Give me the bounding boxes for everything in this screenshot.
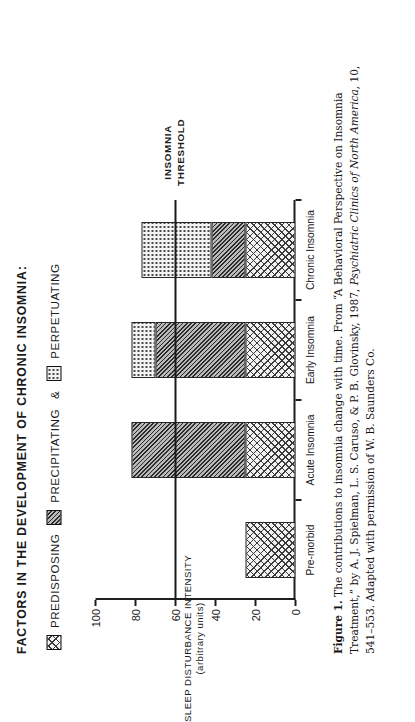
value-tick-label: 40 [209, 600, 221, 621]
threshold-label-line2: THRESHOLD [173, 119, 186, 186]
bar-segment-predisposing [245, 522, 295, 578]
bar-segment-precipitating [131, 422, 245, 478]
bar-group [95, 322, 295, 378]
category-label: Pre-morbid [304, 525, 315, 576]
bar-group [95, 422, 295, 478]
legend-item-precipitating: PRECIPITATING [46, 409, 61, 525]
bar-group [95, 222, 295, 278]
legend-swatch-predisposing-icon [46, 635, 61, 650]
plot-area: SLEEP DISTURBANCE INTENSITY (arbitrary u… [95, 200, 295, 600]
value-tick-label: 80 [129, 600, 141, 621]
category-label: Chronic Insomnia [304, 210, 315, 290]
value-axis-title: SLEEP DISTURBANCE INTENSITY (arbitrary u… [181, 555, 205, 722]
category-tick [295, 399, 301, 400]
category-tick [295, 299, 301, 300]
value-tick-label: 20 [249, 600, 261, 621]
bar-group [95, 522, 295, 578]
value-axis-title-line1: SLEEP DISTURBANCE INTENSITY [181, 555, 193, 722]
chart-title: FACTORS IN THE DEVELOPMENT OF CHRONIC IN… [14, 265, 28, 654]
legend-label-perpetuating: PERPETUATING [47, 263, 60, 358]
value-tick-label: 100 [89, 600, 101, 627]
category-tick [295, 199, 301, 200]
category-label: Early Insomnia [304, 316, 315, 384]
bar-segment-predisposing [245, 222, 295, 278]
value-tick-label: 60 [169, 600, 181, 621]
insomnia-threshold-label: INSOMNIA THRESHOLD [160, 119, 186, 186]
bar-segment-predisposing [245, 322, 295, 378]
bar-segment-precipitating [155, 322, 245, 378]
legend-swatch-perpetuating-icon [46, 366, 61, 381]
legend-item-predisposing: PREDISPOSING [46, 534, 61, 650]
figure-caption: Figure 1. The contributions to insomnia … [330, 42, 378, 654]
threshold-label-line1: INSOMNIA [160, 119, 173, 186]
value-axis-title-line2: (arbitrary units) [193, 555, 205, 722]
category-tick [295, 499, 301, 500]
legend-label-predisposing: PREDISPOSING [47, 534, 60, 628]
legend-conjunction: & [47, 390, 60, 400]
value-tick-label: 0 [289, 600, 301, 615]
category-label: Acute Insomnia [304, 415, 315, 486]
legend-swatch-precipitating-icon [46, 510, 61, 525]
insomnia-threshold-line [174, 200, 176, 600]
legend-item-perpetuating: PERPETUATING [46, 263, 61, 380]
bar-segment-precipitating [211, 222, 245, 278]
bar-segment-perpetuating [131, 322, 155, 378]
caption-figure-number: Figure 1. [331, 600, 343, 654]
bar-segment-predisposing [245, 422, 295, 478]
legend-label-precipitating: PRECIPITATING [47, 409, 60, 503]
chart-legend: PREDISPOSING PRECIPITATING & PERPETUATIN… [46, 263, 61, 650]
caption-journal: Psychiatric Clinics of North America [347, 89, 359, 285]
